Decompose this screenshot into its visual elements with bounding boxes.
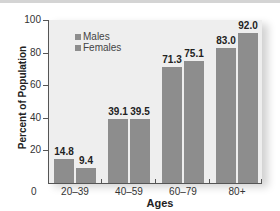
- y-axis-title: Percent of Population: [17, 38, 28, 158]
- value-label: 9.4: [71, 155, 101, 166]
- legend-label: Males: [83, 31, 110, 42]
- x-category-label: 40–59: [109, 186, 149, 197]
- legend-item-males: Males: [75, 31, 121, 42]
- legend-label: Females: [83, 42, 121, 53]
- legend: Males Females: [75, 31, 121, 53]
- bar-females-20-39: [76, 168, 96, 183]
- legend-swatch-icon: [75, 34, 81, 40]
- x-category-label: 80+: [217, 186, 257, 197]
- y-tick: [43, 85, 48, 86]
- y-zero-label: 0: [31, 186, 37, 197]
- top-border: [0, 0, 280, 3]
- bar-females-80plus: [238, 33, 258, 183]
- y-axis-line: [48, 20, 49, 184]
- x-tick: [101, 179, 102, 183]
- x-tick: [209, 179, 210, 183]
- y-tick-label: 100: [21, 14, 41, 25]
- x-axis-title: Ages: [135, 197, 185, 209]
- y-tick: [43, 118, 48, 119]
- bar-females-40-59: [130, 119, 150, 183]
- bar-males-80plus: [216, 48, 236, 183]
- x-category-label: 60–79: [163, 186, 203, 197]
- y-tick: [43, 20, 48, 21]
- x-axis-line: [48, 183, 262, 184]
- legend-item-females: Females: [75, 42, 121, 53]
- bar-males-40-59: [108, 119, 128, 183]
- x-tick: [155, 179, 156, 183]
- bar-females-60-79: [184, 61, 204, 183]
- x-category-label: 20–39: [55, 186, 95, 197]
- value-label: 92.0: [233, 20, 263, 31]
- y-tick: [43, 150, 48, 151]
- bar-males-60-79: [162, 67, 182, 183]
- y-tick: [43, 53, 48, 54]
- value-label: 75.1: [179, 48, 209, 59]
- value-label: 39.5: [125, 106, 155, 117]
- legend-swatch-icon: [75, 45, 81, 51]
- x-tick: [261, 179, 262, 183]
- value-label: 83.0: [211, 35, 241, 46]
